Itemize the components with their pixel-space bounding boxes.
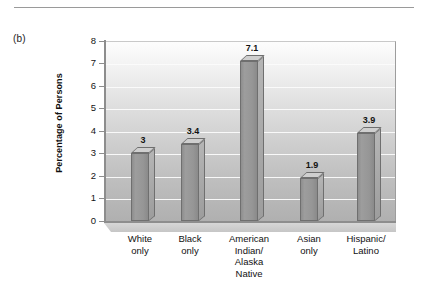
bar-value-label: 1.9 xyxy=(292,160,332,170)
x-axis-label-line: Alaska xyxy=(212,256,286,268)
y-tick-label: 6 xyxy=(78,80,96,91)
y-tick-mark xyxy=(99,176,105,177)
bar-side-face xyxy=(149,148,155,221)
panel-letter-label: (b) xyxy=(13,33,26,44)
x-axis-label-line: Native xyxy=(212,268,286,280)
bar-front-face xyxy=(300,178,318,221)
x-axis-label-line: Latino xyxy=(329,245,403,257)
chart-floor xyxy=(104,221,396,232)
bar-front-face xyxy=(357,133,375,221)
x-axis-label-line: Hispanic/ xyxy=(329,233,403,245)
bar-hispanic-latino xyxy=(357,133,375,221)
bar-value-label: 3.4 xyxy=(173,126,213,136)
bar-black-only xyxy=(181,144,199,221)
y-tick-mark xyxy=(99,153,105,154)
chart-floor-face xyxy=(104,223,396,232)
y-tick-label: 2 xyxy=(78,170,96,181)
y-tick-mark xyxy=(99,131,105,132)
y-tick-mark xyxy=(99,63,105,64)
chart-floor-top xyxy=(104,221,396,223)
y-tick-label: 1 xyxy=(78,192,96,203)
bar-white-only xyxy=(131,153,149,221)
bar-front-face xyxy=(240,61,258,221)
bar-side-face xyxy=(258,56,264,221)
bar-front-face xyxy=(181,144,199,221)
y-tick-label: 0 xyxy=(78,215,96,226)
bar-side-face xyxy=(318,173,324,221)
y-tick-mark xyxy=(99,41,105,42)
top-divider-rule xyxy=(14,7,414,8)
y-tick-label: 5 xyxy=(78,102,96,113)
bar-side-face xyxy=(199,139,205,221)
figure-panel: (b) Percentage of Persons 8 7 6 5 4 3 2 … xyxy=(0,0,421,295)
x-axis-label-hispanic-latino: Hispanic/Latino xyxy=(329,233,403,256)
y-tick-mark xyxy=(99,86,105,87)
y-tick-label: 8 xyxy=(78,35,96,46)
y-tick-label: 7 xyxy=(78,57,96,68)
y-tick-mark xyxy=(99,198,105,199)
bar-value-label: 3 xyxy=(123,135,163,145)
y-tick-label: 3 xyxy=(78,147,96,158)
bar-front-face xyxy=(131,153,149,221)
bar-asian-only xyxy=(300,178,318,221)
y-tick-mark xyxy=(99,108,105,109)
bar-value-label: 7.1 xyxy=(232,43,272,53)
bar-side-face xyxy=(375,128,381,221)
y-tick-label: 4 xyxy=(78,125,96,136)
y-axis-title: Percentage of Persons xyxy=(54,33,64,213)
bar-value-label: 3.9 xyxy=(349,115,389,125)
bar-american-indian-alaska-native xyxy=(240,61,258,221)
